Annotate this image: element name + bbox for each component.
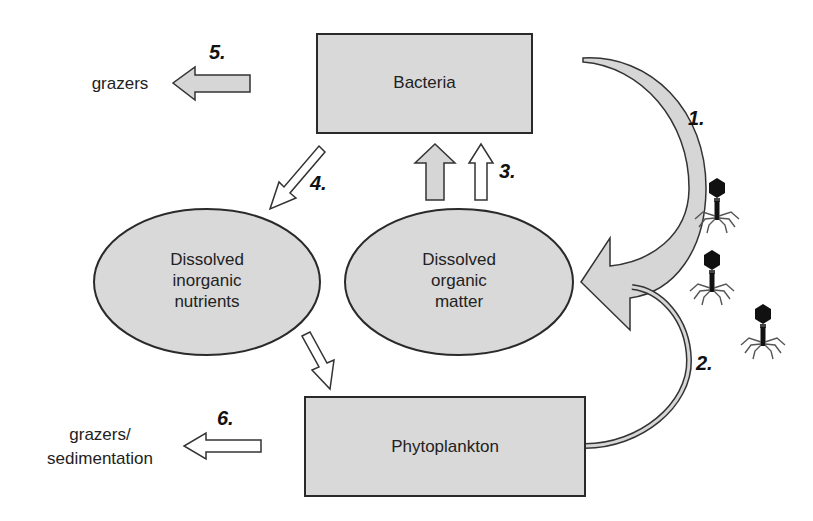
organic-line-3: matter (386, 291, 532, 312)
grazers-sed-line-2: sedimentation (20, 447, 180, 471)
flow-arrow-nutrients-to-phytoplankton (302, 332, 334, 389)
grazers-label: grazers (60, 72, 180, 96)
flow-number-5: 5. (209, 41, 226, 64)
flow-arrow-3-gray (415, 144, 455, 200)
inorganic-line-1: Dissolved (134, 249, 280, 270)
organic-line-1: Dissolved (386, 249, 532, 270)
grazers-sed-line-1: grazers/ (20, 423, 180, 447)
bacteria-label: Bacteria (317, 72, 532, 93)
flow-number-6: 6. (217, 407, 234, 430)
inorganic-line-2: inorganic (134, 270, 280, 291)
inorganic-line-3: nutrients (134, 291, 280, 312)
phage-icon-2 (690, 250, 734, 305)
grazers-sedimentation-label: grazers/ sedimentation (20, 423, 180, 471)
phage-icon-3 (741, 304, 785, 359)
flow-number-4: 4. (310, 172, 327, 195)
flow-number-2: 2. (696, 352, 713, 375)
flow-arrow-5 (173, 67, 250, 100)
flow-arrow-6 (184, 433, 261, 459)
organic-line-2: organic (386, 270, 532, 291)
flow-number-3: 3. (499, 160, 516, 183)
flow-number-1: 1. (688, 107, 705, 130)
phytoplankton-label: Phytoplankton (305, 436, 585, 457)
flow-arrow-3-white (469, 144, 493, 200)
inorganic-nutrients-label: Dissolved inorganic nutrients (134, 249, 280, 312)
organic-matter-label: Dissolved organic matter (386, 249, 532, 312)
